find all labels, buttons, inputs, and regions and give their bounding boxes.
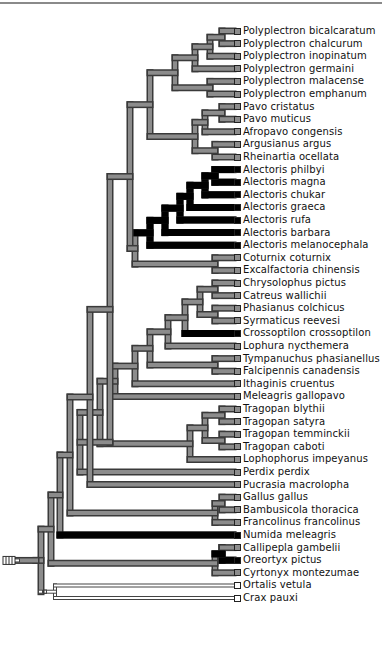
taxon-label: Alectoris melanocephala [243,239,369,251]
taxon-label: Crax pauxi [243,592,298,604]
tip-state-box [234,494,241,501]
tip-state-box [234,53,241,60]
tip-state-box [234,456,241,463]
tip-state-box [234,103,241,110]
taxon-label: Rheinartia ocellata [243,151,339,163]
tip-state-box [234,154,241,161]
tip-state-box [234,443,241,450]
tip-state-box [234,280,241,287]
tip-state-box [234,532,241,539]
taxon-label: Pucrasia macrolopha [243,479,349,491]
taxon-label: Lophophorus impeyanus [243,453,368,465]
taxon-label: Numida meleagris [243,529,336,541]
tip-state-box [234,431,241,438]
tip-state-box [234,141,241,148]
tip-state-box [234,229,241,236]
taxon-label: Cyrtonyx montezumae [243,567,359,579]
taxon-label: Polyplectron bicalcaratum [243,25,376,37]
taxon-label: Chrysolophus pictus [243,277,346,289]
taxon-label: Polyplectron inopinatum [243,50,367,62]
taxon-label: Tympanuchus phasianellus [243,353,380,365]
taxon-label: Alectoris rufa [243,214,311,226]
tip-state-box [234,393,241,400]
taxon-label: Tragopan blythii [243,403,325,415]
taxon-label: Tragopan satyra [243,416,325,428]
tip-state-box [234,78,241,85]
taxon-label: Pavo cristatus [243,101,314,113]
tip-state-box [234,343,241,350]
taxon-label: Oreortyx pictus [243,554,322,566]
taxon-label: Tragopan caboti [243,441,325,453]
taxon-label: Argusianus argus [243,138,331,150]
tip-state-box [234,418,241,425]
taxon-label: Francolinus francolinus [243,516,360,528]
tip-state-box [234,330,241,337]
tip-state-box [234,305,241,312]
tip-state-box [234,595,241,602]
tip-state-box [234,116,241,123]
taxon-label: Polyplectron malacense [243,75,364,87]
taxon-label: Polyplectron chalcurum [243,38,363,50]
tip-state-box [234,40,241,47]
tip-state-box [234,406,241,413]
tip-state-box [234,267,241,274]
taxon-label: Alectoris graeca [243,201,326,213]
taxon-label: Afropavo congensis [243,126,343,138]
tip-state-box [234,191,241,198]
tip-state-box [234,368,241,375]
tip-state-box [234,217,241,224]
taxon-label: Tragopan temminckii [243,428,350,440]
taxon-label: Meleagris gallopavo [243,390,345,402]
taxon-label: Coturnix coturnix [243,252,331,264]
tip-state-box [234,481,241,488]
tip-state-box [234,544,241,551]
tip-state-box [234,254,241,261]
tip-state-box [234,557,241,564]
tip-state-box [234,166,241,173]
taxon-label: Lophura nycthemera [243,340,349,352]
tip-state-box [234,65,241,72]
tip-state-box [234,28,241,35]
tip-state-box [234,380,241,387]
tip-state-box [234,469,241,476]
tip-state-box [234,242,241,249]
tip-state-box [234,506,241,513]
tip-state-box [234,128,241,135]
taxon-label: Polyplectron emphanum [243,88,367,100]
taxon-label: Perdix perdix [243,466,310,478]
taxon-label: Ortalis vetula [243,579,312,591]
taxon-label: Excalfactoria chinensis [243,264,360,276]
tip-state-box [234,355,241,362]
taxon-label: Ithaginis cruentus [243,378,335,390]
taxon-label: Catreus wallichii [243,290,327,302]
taxon-label: Polyplectron germaini [243,63,354,75]
taxon-label: Falcipennis canadensis [243,365,360,377]
taxon-label: Alectoris magna [243,176,326,188]
taxon-label: Alectoris barbara [243,227,331,239]
tip-state-box [234,317,241,324]
taxon-label: Callipepla gambelii [243,542,340,554]
tip-state-box [234,519,241,526]
tip-state-box [234,204,241,211]
tip-state-box [234,179,241,186]
tip-state-box [234,91,241,98]
taxon-label: Phasianus colchicus [243,302,345,314]
taxon-label: Alectoris chukar [243,189,325,201]
tip-state-box [234,569,241,576]
taxon-label: Alectoris philbyi [243,164,325,176]
taxon-label: Pavo muticus [243,113,311,125]
taxon-label: Syrmaticus reevesi [243,315,340,327]
taxon-label: Bambusicola thoracica [243,504,359,516]
taxon-label: Gallus gallus [243,491,308,503]
tip-state-box [234,582,241,589]
taxon-label: Crossoptilon crossoptilon [243,327,371,339]
tip-state-box [234,292,241,299]
